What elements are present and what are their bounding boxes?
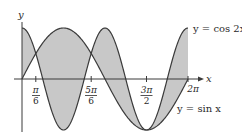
tick-label-5pi6-denominator: 6: [88, 96, 94, 106]
sin-curve-label: y = sin x: [176, 103, 221, 114]
area-between-curves-chart: y x π 6 5π 6 3π 2 2π y = cos 2x y = sin …: [0, 0, 242, 139]
tick-label-3pi2-denominator: 2: [144, 96, 150, 106]
tick-label-pi6-numerator: π: [32, 85, 40, 95]
y-axis-label: y: [17, 9, 24, 20]
tick-label-2pi: 2π: [186, 84, 200, 94]
tick-label-pi6-denominator: 6: [33, 96, 39, 106]
x-axis-arrow-icon: [198, 77, 204, 82]
x-axis-label: x: [206, 73, 212, 84]
tick-label-5pi6-numerator: 5π: [85, 85, 98, 95]
tick-label-3pi2-numerator: 3π: [141, 85, 154, 95]
cos-curve-label: y = cos 2x: [192, 23, 242, 34]
